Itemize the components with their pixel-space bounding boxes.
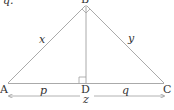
vertex-label-c: C [163, 83, 171, 96]
side-ab [8, 6, 85, 83]
side-label-z: z [82, 93, 89, 106]
partial-text: q. [3, 0, 14, 7]
side-label-p: p [40, 84, 47, 97]
side-bc [87, 6, 164, 83]
side-label-x: x [39, 33, 46, 46]
triangle-diagram: q. B A D C x y p q z [0, 0, 174, 110]
vertex-label-a: A [0, 83, 9, 96]
vertex-label-b: B [81, 0, 89, 6]
side-label-q: q [122, 84, 129, 97]
side-label-y: y [127, 32, 135, 45]
